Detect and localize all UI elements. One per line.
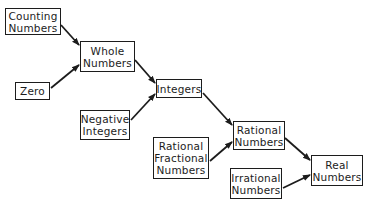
node-label-line: Real	[325, 159, 348, 171]
node-negative-integers: Negative Integers	[80, 110, 130, 140]
node-label-line: Negative	[81, 113, 130, 125]
node-whole-numbers: Whole Numbers	[80, 41, 135, 72]
node-label-line: Numbers	[83, 57, 132, 69]
node-label-line: Numbers	[312, 171, 361, 183]
node-label-line: Integers	[157, 83, 202, 95]
number-system-diagram: Counting Numbers Whole Numbers Zero Inte…	[0, 0, 371, 213]
arrow-counting-to-whole	[61, 25, 79, 45]
arrow-rational-to-real	[285, 138, 310, 160]
node-rational-numbers: Rational Numbers	[233, 121, 285, 150]
node-label-line: Rational	[237, 124, 282, 136]
node-label-line: Numbers	[231, 184, 280, 196]
arrow-integers-to-rational	[203, 93, 232, 125]
node-label-line: Numbers	[156, 164, 205, 176]
arrow-rational_fractional-to-rational	[210, 142, 232, 161]
node-label-line: Zero	[20, 85, 45, 97]
node-rational-fractional-numbers: Rational Fractional Numbers	[153, 137, 209, 179]
node-real-numbers: Real Numbers	[311, 155, 363, 186]
node-counting-numbers: Counting Numbers	[5, 8, 61, 35]
node-label-line: Counting	[8, 10, 57, 22]
node-label-line: Numbers	[8, 22, 57, 34]
arrow-negative-to-integers	[131, 94, 155, 120]
node-label-line: Numbers	[234, 136, 283, 148]
node-label-line: Fractional	[154, 152, 207, 164]
node-zero: Zero	[15, 82, 50, 100]
node-label-line: Integers	[83, 125, 128, 137]
arrow-irrational-to-real	[283, 175, 310, 188]
node-label-line: Rational	[159, 140, 204, 152]
node-label-line: Whole	[91, 45, 125, 57]
node-integers: Integers	[156, 79, 202, 98]
arrow-whole-to-integers	[135, 60, 155, 83]
node-label-line: Irrational	[231, 172, 280, 184]
arrow-zero-to-whole	[51, 65, 79, 88]
node-irrational-numbers: Irrational Numbers	[230, 168, 282, 199]
